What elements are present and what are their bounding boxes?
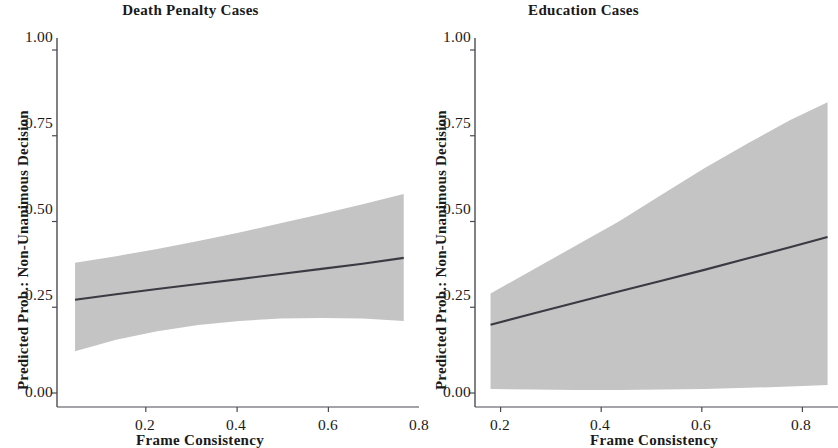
x-tick-label: 0.2 [480,416,520,434]
confidence-band [491,102,828,390]
plot-area-education [419,0,838,448]
panel-education-cases: Education Cases 1.00 0.75 0.50 0.25 0.00… [419,0,838,448]
figure-panels: Death Penalty Cases 1.00 0.75 0.50 0.25 … [0,0,838,448]
x-tick-label: 0.8 [781,416,821,434]
panel-death-penalty-cases: Death Penalty Cases 1.00 0.75 0.50 0.25 … [0,0,419,448]
y-axis-title: Predicted Prob.: Non-Unanimous Decision [15,110,32,390]
y-tick-label: 1.00 [1,28,53,46]
y-tick-label: 1.00 [419,28,471,46]
x-axis-title: Frame Consistency [110,432,290,448]
confidence-band [75,194,404,351]
x-axis-title: Frame Consistency [564,432,744,448]
x-tick-label: 0.6 [308,416,348,434]
plot-area-death-penalty [0,0,419,448]
y-axis-title: Predicted Prob.: Non-Unanimous Decision [433,110,450,390]
